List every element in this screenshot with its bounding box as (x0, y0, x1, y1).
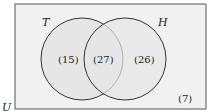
intersection-count: (27) (93, 54, 114, 65)
h-only-count: (26) (134, 54, 155, 65)
universe-label: U (2, 101, 12, 112)
outside-count: (7) (178, 93, 192, 104)
venn-diagram: T H U (15) (27) (26) (7) (0, 0, 210, 112)
t-only-count: (15) (58, 54, 79, 65)
set-h-label: H (157, 16, 168, 29)
